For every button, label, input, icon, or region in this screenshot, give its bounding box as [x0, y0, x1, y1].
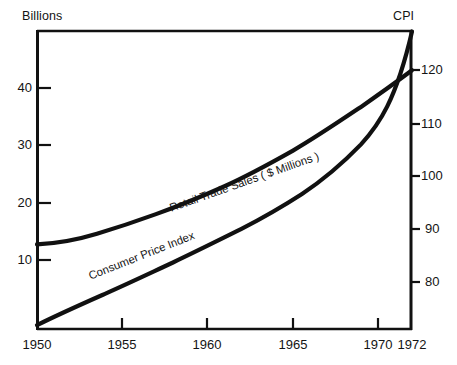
axis-frame	[37, 30, 412, 330]
series-line-retail-trade-sales	[37, 70, 412, 244]
series-line-consumer-price-index	[37, 32, 412, 326]
x-axis-ticks	[122, 318, 378, 328]
chart-figure: Billions CPI 40 30 20 10 120 110 100 90 …	[0, 0, 457, 365]
left-axis-ticks	[39, 88, 51, 260]
